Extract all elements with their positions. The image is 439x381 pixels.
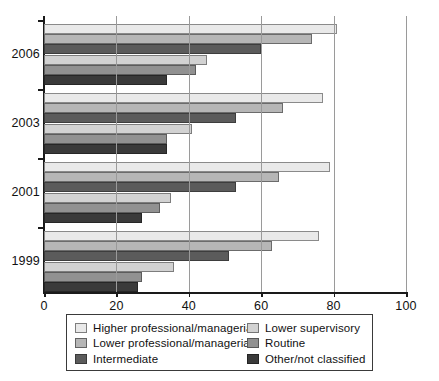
bar-2001-series-1 <box>44 172 279 182</box>
gridline-40 <box>189 16 190 292</box>
y-tick-2003 <box>38 89 44 91</box>
gridline-80 <box>334 16 335 292</box>
bar-2003-series-1 <box>44 103 283 113</box>
swatch-lower-professional-icon <box>75 338 87 348</box>
x-axis-line <box>43 292 407 294</box>
bar-2006-series-2 <box>44 44 261 54</box>
swatch-routine-icon <box>247 338 259 348</box>
y-axis-label-2001: 2001 <box>6 185 40 199</box>
bar-2001-series-0 <box>44 162 330 172</box>
x-tick-label-40: 40 <box>182 299 196 313</box>
legend-column-left: Higher professional/managerialLower prof… <box>75 320 247 366</box>
legend-item-intermediate[interactable]: Intermediate <box>75 351 247 366</box>
x-tick-label-20: 20 <box>109 299 123 313</box>
bar-1999-series-2 <box>44 251 229 261</box>
swatch-other-not-classified-icon <box>247 354 259 364</box>
bar-1999-series-5 <box>44 282 138 292</box>
plot-area <box>44 16 406 292</box>
bar-1999-series-0 <box>44 231 319 241</box>
legend-label: Lower supervisory <box>265 322 360 334</box>
legend-label: Other/not classified <box>265 353 365 365</box>
bar-2006-series-5 <box>44 75 167 85</box>
legend-item-lower-professional[interactable]: Lower professional/managerial <box>75 336 247 351</box>
bar-2003-series-0 <box>44 93 323 103</box>
bar-2003-series-5 <box>44 144 167 154</box>
bar-chart: 020406080100 2006200320011999 Higher pro… <box>0 0 439 381</box>
bar-2001-series-2 <box>44 182 236 192</box>
y-axis-label-2003: 2003 <box>6 116 40 130</box>
legend-item-routine[interactable]: Routine <box>247 336 365 351</box>
bar-1999-series-4 <box>44 272 142 282</box>
y-tick-2001 <box>38 158 44 160</box>
legend-column-right: Lower supervisoryRoutineOther/not classi… <box>247 320 365 366</box>
swatch-intermediate-icon <box>75 354 87 364</box>
bar-2006-series-0 <box>44 24 337 34</box>
y-tick-2006 <box>38 20 44 22</box>
gridline-100 <box>406 16 407 292</box>
chart-legend: Higher professional/managerialLower prof… <box>66 314 373 371</box>
legend-label: Routine <box>265 337 305 349</box>
x-tick-80 <box>334 292 336 297</box>
x-tick-label-60: 60 <box>254 299 268 313</box>
bar-2001-series-5 <box>44 213 142 223</box>
x-tick-20 <box>116 292 118 297</box>
y-tick-1999 <box>38 227 44 229</box>
legend-label: Lower professional/managerial <box>93 337 253 349</box>
bar-2003-series-3 <box>44 124 192 134</box>
x-tick-40 <box>189 292 191 297</box>
legend-item-lower-supervisory[interactable]: Lower supervisory <box>247 320 365 335</box>
legend-label: Higher professional/managerial <box>93 322 255 334</box>
bar-1999-series-3 <box>44 262 174 272</box>
x-tick-100 <box>406 292 408 297</box>
swatch-higher-professional-icon <box>75 323 87 333</box>
bar-2006-series-3 <box>44 55 207 65</box>
bar-2006-series-4 <box>44 65 196 75</box>
x-tick-0 <box>44 292 46 297</box>
x-tick-label-80: 80 <box>326 299 340 313</box>
bar-1999-series-1 <box>44 241 272 251</box>
y-axis-label-1999: 1999 <box>6 254 40 268</box>
bar-2003-series-2 <box>44 113 236 123</box>
bar-2006-series-1 <box>44 34 312 44</box>
swatch-lower-supervisory-icon <box>247 323 259 333</box>
gridline-60 <box>261 16 262 292</box>
x-tick-label-0: 0 <box>40 299 47 313</box>
gridline-20 <box>116 16 117 292</box>
legend-label: Intermediate <box>93 353 158 365</box>
x-tick-label-100: 100 <box>395 299 416 313</box>
legend-item-higher-professional[interactable]: Higher professional/managerial <box>75 320 247 335</box>
legend-item-other-not-classified[interactable]: Other/not classified <box>247 351 365 366</box>
y-axis-label-2006: 2006 <box>6 47 40 61</box>
bar-2001-series-3 <box>44 193 171 203</box>
x-tick-60 <box>261 292 263 297</box>
bar-2001-series-4 <box>44 203 160 213</box>
bar-2003-series-4 <box>44 134 167 144</box>
